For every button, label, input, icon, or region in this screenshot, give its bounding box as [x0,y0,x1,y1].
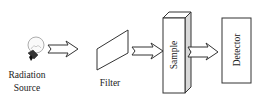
spectroscopy-diagram: Radiation Source Filter Sample Detector [0,0,265,103]
light-bulb-icon [28,37,44,61]
detector-label: Detector [232,33,242,67]
arrow-icon [132,43,163,59]
filter-label: Filter [100,78,121,88]
sample-label: Sample [169,41,179,70]
arrow-icon [48,41,78,57]
source-label-line1: Radiation [9,70,46,80]
source-label-line2: Source [14,83,40,93]
filter-shape [97,30,128,70]
arrow-icon [188,43,218,60]
